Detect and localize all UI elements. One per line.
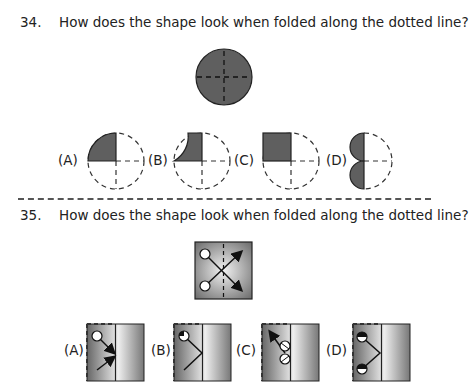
question-number: 34. — [20, 14, 41, 30]
option-b-figure[interactable] — [172, 131, 236, 195]
question-text: How does the shape look when folded alon… — [59, 14, 469, 30]
circle-figure — [195, 48, 255, 108]
option-d-figure[interactable] — [352, 323, 412, 383]
option-c-figure[interactable] — [261, 131, 325, 195]
option-label-b: (B) — [148, 152, 168, 168]
option-label-b: (B) — [151, 342, 171, 358]
option-a-figure[interactable] — [86, 131, 150, 195]
square-figure — [194, 241, 254, 301]
question-text: How does the shape look when folded alon… — [59, 207, 469, 223]
option-a-figure[interactable] — [86, 323, 146, 383]
option-c-figure[interactable] — [261, 323, 321, 383]
option-label-a: (A) — [64, 342, 84, 358]
question-number: 35. — [20, 207, 41, 223]
option-label-d: (D) — [326, 152, 347, 168]
option-label-c: (C) — [234, 152, 254, 168]
section-divider — [18, 198, 431, 200]
option-label-c: (C) — [236, 342, 256, 358]
option-label-d: (D) — [326, 342, 347, 358]
option-b-figure[interactable] — [173, 323, 233, 383]
option-label-a: (A) — [58, 152, 78, 168]
option-d-figure[interactable] — [354, 131, 418, 195]
